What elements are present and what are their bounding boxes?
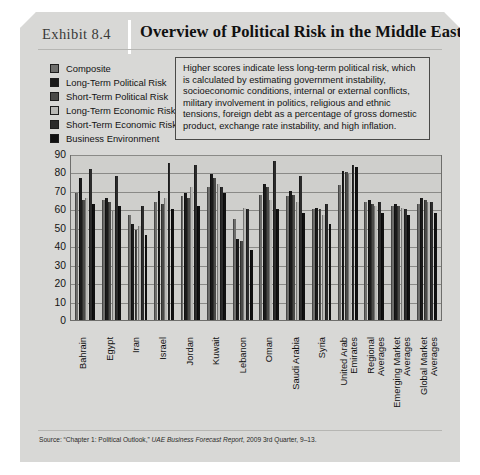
bar-group [230,156,256,320]
bar [355,167,358,320]
bar-group [361,156,387,320]
x-axis-tick-label: United ArabEmirates [339,337,359,386]
x-axis-label-cell: Jordan [176,337,203,432]
x-axis-tick-label: Lebanon [238,337,248,373]
y-axis-tick-label: 50 [55,224,66,234]
footer-rule [38,430,442,431]
x-axis-tick-label: Kuwait [211,337,221,365]
legend-swatch-icon [50,134,59,143]
x-axis-tick-label: Bahrain [78,337,88,369]
legend-item-label: Short-Term Economic Risk [66,119,177,130]
x-axis-tick-label: Egypt [105,337,115,361]
bar [223,193,226,320]
chart-plot-area: 0102030405060708090 [38,155,442,335]
y-axis-tick-label: 0 [60,316,66,326]
bar [118,206,121,320]
header-rule [38,49,442,50]
y-axis-tick-label: 60 [55,205,66,215]
y-axis-tick-labels: 0102030405060708090 [38,155,68,321]
x-axis-label-cell: Global MarketAverages [416,337,443,432]
x-axis-label-cell: Oman [256,337,283,432]
bar-group [72,156,98,320]
legend-swatch-icon [50,64,59,73]
x-axis-label-cell: Lebanon [229,337,256,432]
bar [250,250,253,320]
x-axis-tick-label: Global MarketAverages [419,337,439,395]
exhibit-figure: Exhibit 8.4 Overview of Political Risk i… [0,0,480,475]
x-axis-label-cell: Emerging MarketAverages [389,337,416,432]
x-axis-tick-label: Syria [317,337,327,358]
annotation-text: Higher scores indicate less long-term po… [183,63,422,133]
legend-swatch-icon [50,92,59,101]
bar [381,213,384,320]
bar [302,213,305,320]
bar [434,213,437,320]
annotation-callout: Higher scores indicate less long-term po… [175,57,430,140]
bar-group [98,156,124,320]
source-note: Source: “Chapter 1: Political Outlook,” … [39,435,439,444]
y-axis-tick-label: 20 [55,279,66,289]
x-axis-label-cell: Israel [150,337,177,432]
x-axis-tick-label: Jordan [185,337,195,365]
bar [407,215,410,320]
bar-group [335,156,361,320]
bar-groups [71,156,441,320]
source-publication: UAE Business Forecast Report [152,436,243,443]
bar [171,209,174,320]
bar-group [282,156,308,320]
bar-group [414,156,440,320]
y-axis-tick-label: 30 [55,261,66,271]
x-axis-label-cell: Iran [123,337,150,432]
x-axis-tick-label: Israel [158,337,168,360]
bar-group [203,156,229,320]
x-axis-label-cell: RegionalAverages [362,337,389,432]
bar-group [387,156,413,320]
y-axis-tick-label: 70 [55,187,66,197]
legend-swatch-icon [50,106,59,115]
legend-item-label: Composite [66,63,111,74]
x-axis-label-cell: Syria [309,337,336,432]
bar-group [256,156,282,320]
legend-item-label: Long-Term Political Risk [66,77,167,88]
x-axis-label-cell: Egypt [97,337,124,432]
source-prefix: Source: “Chapter 1: Political Outlook,” [39,436,152,443]
bar-group [125,156,151,320]
legend-item-label: Business Environment [66,133,159,144]
x-axis-category-labels: BahrainEgyptIranIsraelJordanKuwaitLebano… [70,337,442,432]
x-axis-label-cell: Saudi Arabia [283,337,310,432]
y-axis-tick-label: 90 [55,150,66,160]
bar-group [309,156,335,320]
bar [197,206,200,320]
bar-group [151,156,177,320]
legend-swatch-icon [50,78,59,87]
legend-swatch-icon [50,120,59,129]
source-suffix: , 2009 3rd Quarter, 9–13. [243,436,317,443]
x-axis-tick-label: RegionalAverages [366,337,386,376]
x-axis-label-cell: Kuwait [203,337,230,432]
legend-item-label: Short-Term Political Risk [66,91,168,102]
y-axis-tick-label: 80 [55,168,66,178]
x-axis-label-cell: Bahrain [70,337,97,432]
plot-axes [70,155,442,321]
x-axis-tick-label: Oman [264,337,274,362]
x-axis-tick-label: Iran [131,337,141,353]
x-axis-tick-label: Saudi Arabia [291,337,301,390]
bar [276,209,279,320]
x-axis-tick-label: Emerging MarketAverages [392,337,412,408]
bar [145,235,148,320]
legend-item-label: Long-Term Economic Risk [66,105,175,116]
bar [92,204,95,320]
exhibit-number: Exhibit 8.4 [42,26,111,43]
exhibit-card: Exhibit 8.4 Overview of Political Risk i… [20,12,460,462]
y-axis-tick-label: 10 [55,298,66,308]
bar-group [177,156,203,320]
x-axis-label-cell: United ArabEmirates [336,337,363,432]
y-axis-tick-label: 40 [55,242,66,252]
bar [329,224,332,320]
page-title: Overview of Political Risk in the Middle… [140,22,462,42]
